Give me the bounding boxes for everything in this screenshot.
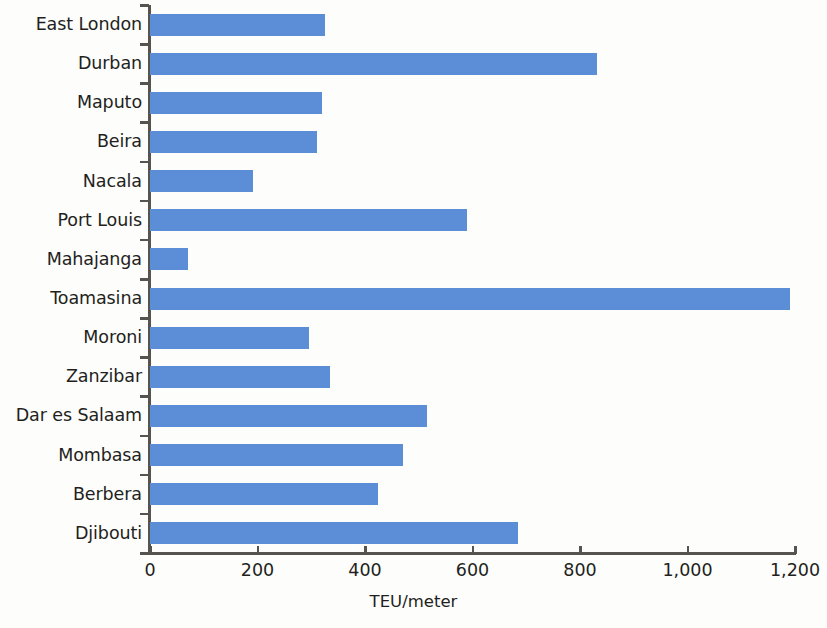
bar-row: Maputo	[0, 83, 827, 122]
bar-row: Durban	[0, 44, 827, 83]
bar-maputo	[150, 92, 322, 114]
bar-row: Dar es Salaam	[0, 396, 827, 435]
y-axis-tick	[140, 4, 149, 7]
x-axis-tick-label: 1,000	[662, 560, 712, 580]
bar-row: Mahajanga	[0, 240, 827, 279]
category-label-east-london: East London	[0, 5, 142, 44]
category-label-berbera: Berbera	[0, 475, 142, 514]
y-axis-tick	[140, 278, 149, 281]
y-axis-tick	[140, 552, 149, 555]
x-axis-tick-label: 1,200	[770, 560, 820, 580]
y-axis-tick	[140, 435, 149, 438]
plot-area: East LondonDurbanMaputoBeiraNacalaPort L…	[0, 0, 827, 628]
bar-row: Djibouti	[0, 514, 827, 553]
category-label-dar-es-salaam: Dar es Salaam	[0, 396, 142, 435]
bar-row: Moroni	[0, 318, 827, 357]
bar-dar-es-salaam	[150, 405, 427, 427]
y-axis-tick	[140, 121, 149, 124]
x-axis-tick	[257, 546, 260, 554]
category-label-mombasa: Mombasa	[0, 436, 142, 475]
x-axis-tick	[472, 546, 475, 554]
bar-rows: East LondonDurbanMaputoBeiraNacalaPort L…	[0, 5, 827, 553]
x-axis-tick-label: 600	[456, 560, 489, 580]
x-axis-title: TEU/meter	[0, 592, 827, 611]
x-axis-tick	[364, 546, 367, 554]
y-axis-tick	[140, 395, 149, 398]
category-label-toamasina: Toamasina	[0, 279, 142, 318]
x-axis-tick	[149, 546, 152, 554]
bar-mombasa	[150, 444, 403, 466]
bar-port-louis	[150, 209, 467, 231]
category-label-durban: Durban	[0, 44, 142, 83]
bar-zanzibar	[150, 366, 330, 388]
category-label-beira: Beira	[0, 122, 142, 161]
category-label-zanzibar: Zanzibar	[0, 357, 142, 396]
x-axis-tick-label: 0	[144, 560, 155, 580]
category-label-djibouti: Djibouti	[0, 514, 142, 553]
y-axis-tick	[140, 356, 149, 359]
bar-beira	[150, 131, 317, 153]
bar-row: Toamasina	[0, 279, 827, 318]
x-axis-tick	[794, 546, 797, 554]
x-axis-tick-label: 800	[563, 560, 596, 580]
bar-chart: East LondonDurbanMaputoBeiraNacalaPort L…	[0, 0, 827, 628]
x-axis-tick-label: 200	[241, 560, 274, 580]
bar-toamasina	[150, 288, 790, 310]
y-axis-tick	[140, 82, 149, 85]
x-axis-tick-label: 400	[348, 560, 381, 580]
bar-djibouti	[150, 522, 518, 544]
y-axis-tick	[140, 43, 149, 46]
category-label-mahajanga: Mahajanga	[0, 240, 142, 279]
bar-row: Nacala	[0, 162, 827, 201]
category-label-port-louis: Port Louis	[0, 201, 142, 240]
bar-row: Beira	[0, 122, 827, 161]
x-axis-tick	[579, 546, 582, 554]
bar-durban	[150, 53, 597, 75]
y-axis-tick	[140, 317, 149, 320]
y-axis-tick	[140, 474, 149, 477]
category-label-maputo: Maputo	[0, 83, 142, 122]
category-label-nacala: Nacala	[0, 162, 142, 201]
bar-nacala	[150, 170, 253, 192]
bar-row: Zanzibar	[0, 357, 827, 396]
bar-east-london	[150, 14, 325, 36]
y-axis-tick	[140, 161, 149, 164]
bar-row: Berbera	[0, 475, 827, 514]
bar-moroni	[150, 327, 309, 349]
bar-mahajanga	[150, 248, 188, 270]
bar-row: East London	[0, 5, 827, 44]
bar-berbera	[150, 483, 378, 505]
x-axis-tick	[687, 546, 690, 554]
y-axis-tick	[140, 239, 149, 242]
bar-row: Mombasa	[0, 436, 827, 475]
category-label-moroni: Moroni	[0, 318, 142, 357]
y-axis-tick	[140, 513, 149, 516]
y-axis-tick	[140, 200, 149, 203]
bar-row: Port Louis	[0, 201, 827, 240]
